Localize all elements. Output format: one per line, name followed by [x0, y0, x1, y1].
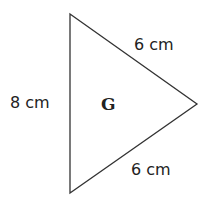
side-label-upper-right: 6 cm — [134, 37, 174, 53]
side-label-lower-right: 6 cm — [131, 162, 171, 178]
side-label-left: 8 cm — [10, 95, 50, 111]
shape-name-label: G — [101, 96, 116, 113]
